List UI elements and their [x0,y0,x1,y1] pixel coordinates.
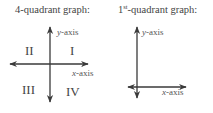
x-axis-label: x-axis [161,87,184,97]
x-axis-label: x-axis [71,68,94,78]
quadrant-ii-label: II [25,43,34,58]
quadrant-iv-label: IV [66,84,80,99]
y-axis-label: y-axis [141,27,164,37]
y-axis-label: y-axis [56,27,79,37]
quadrant-i-label: I [70,43,74,58]
quadrant-iii-label: III [22,82,35,97]
first-quadrant-title: 1st-quadrant graph: [118,3,197,15]
four-quadrant-title: 4-quadrant graph: [15,4,90,15]
first-quadrant-graph: 1st-quadrant graph: y-axis x-axis [118,3,197,98]
four-quadrant-graph: 4-quadrant graph: y-axis x-axis I II III… [10,4,94,102]
quadrant-graphs-diagram: 4-quadrant graph: y-axis x-axis I II III… [0,0,213,113]
